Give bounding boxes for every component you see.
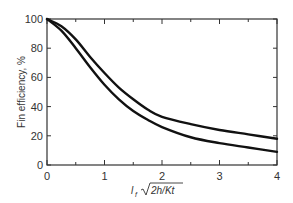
- y-tick-label: 80: [31, 42, 43, 54]
- x-tick-label: 0: [44, 170, 50, 182]
- plot-border: [47, 19, 277, 165]
- data-series: [47, 19, 277, 152]
- x-tick-label: 4: [274, 170, 280, 182]
- y-tick-label: 100: [25, 13, 43, 25]
- x-label-radicand: 2h/Kt: [150, 185, 176, 196]
- x-tick-label: 1: [101, 170, 107, 182]
- x-label-sub: f: [135, 191, 138, 198]
- y-tick-label: 40: [31, 101, 43, 113]
- y-tick-label: 20: [31, 130, 43, 142]
- x-tick-label: 2: [159, 170, 165, 182]
- y-axis-label: Fin efficiency, %: [16, 56, 27, 128]
- series-line-upper: [47, 19, 277, 139]
- y-tick-label: 60: [31, 71, 43, 83]
- axis-ticks: [47, 19, 277, 165]
- tick-labels: 01234020406080100: [25, 13, 280, 182]
- x-tick-label: 3: [216, 170, 222, 182]
- y-tick-label: 0: [37, 159, 43, 171]
- fin-efficiency-chart: 01234020406080100 Fin efficiency, % lf2h…: [0, 0, 293, 203]
- series-line-lower: [47, 19, 277, 152]
- x-axis-label: lf2h/Kt: [131, 183, 183, 198]
- x-label-var: l: [131, 185, 134, 196]
- plot-frame: [47, 19, 277, 165]
